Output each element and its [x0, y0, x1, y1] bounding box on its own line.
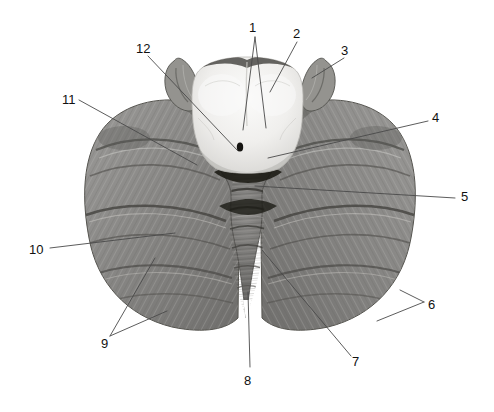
label-number-6: 6	[428, 298, 435, 311]
label-number-11: 11	[62, 93, 76, 106]
label-number-8: 8	[244, 374, 251, 387]
label-number-12: 12	[136, 42, 150, 55]
label-number-9: 9	[101, 337, 108, 350]
label-number-3: 3	[341, 44, 348, 57]
label-number-5: 5	[461, 190, 468, 203]
brainstem-cut-surface	[192, 55, 303, 173]
label-number-7: 7	[352, 355, 359, 368]
cerebellum-illustration	[0, 0, 494, 412]
label-number-4: 4	[432, 111, 439, 124]
anatomical-figure: 1 2 3 4 5 6 7 8 9 10 11 12	[0, 0, 494, 412]
label-number-2: 2	[293, 27, 300, 40]
label-number-10: 10	[29, 243, 43, 256]
label-number-1: 1	[249, 21, 256, 34]
